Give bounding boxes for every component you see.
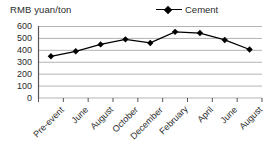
data-point-marker <box>197 30 203 36</box>
y-axis-tick-label: 0 <box>4 94 32 103</box>
gridlines <box>39 27 263 99</box>
data-point-marker <box>48 53 54 59</box>
cement-data-markers <box>48 29 253 60</box>
data-point-marker <box>222 37 228 43</box>
data-point-marker <box>122 36 128 42</box>
y-axis-tick-label: 600 <box>4 22 32 31</box>
y-axis-tick-label: 500 <box>4 34 32 43</box>
cement-price-line-chart: RMB yuan/ton Cement 0100200300400500600 … <box>0 0 274 154</box>
data-point-marker <box>147 40 153 46</box>
y-axis-tick-label: 400 <box>4 46 32 55</box>
data-point-marker <box>73 48 79 54</box>
data-point-marker <box>172 29 178 35</box>
y-axis-tick-label: 100 <box>4 82 32 91</box>
y-axis-tick-label: 200 <box>4 70 32 79</box>
y-axis-tick-label: 300 <box>4 58 32 67</box>
data-point-marker <box>246 46 252 52</box>
plot-area: 0100200300400500600 Pre-eventJuneAugustO… <box>0 0 274 154</box>
data-point-marker <box>97 41 103 47</box>
